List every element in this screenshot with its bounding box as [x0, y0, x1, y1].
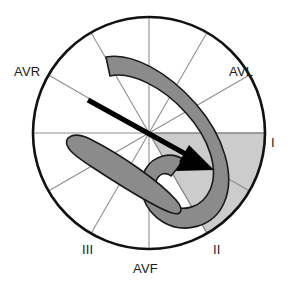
lead-label-iii: III [82, 243, 93, 256]
lead-label-i: I [271, 136, 275, 149]
lead-label-ii: II [213, 243, 221, 256]
lead-label-avl: AVL [229, 65, 253, 78]
lead-label-avr: AVR [14, 65, 40, 78]
ecg-axis-diagram: AVR AVL I II III AVF [0, 0, 294, 282]
lead-label-avf: AVF [133, 262, 158, 275]
hexaxial-wheel-graphic [0, 0, 294, 282]
